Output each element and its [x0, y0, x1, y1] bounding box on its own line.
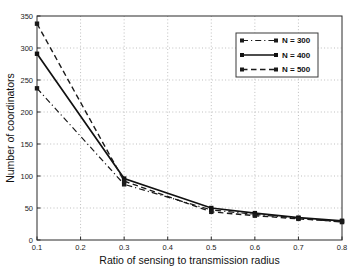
legend-marker-n-400	[240, 53, 244, 57]
y-axis-label: Number of coordinators	[4, 73, 16, 183]
x-tick-label: 0.4	[162, 243, 172, 252]
y-tick-label: 300	[20, 44, 33, 53]
data-point-n-300	[35, 86, 39, 90]
x-axis-label: Ratio of sensing to transmission radius	[99, 254, 279, 266]
legend-marker-n-300	[240, 39, 244, 43]
y-tick-label: 0	[29, 236, 33, 245]
x-tick-label: 0.8	[337, 243, 347, 252]
y-tick-label: 150	[20, 140, 33, 149]
data-point-n-500	[296, 217, 300, 221]
data-point-n-500	[35, 21, 39, 25]
coordinators-vs-ratio-chart: 0.10.20.30.40.50.60.70.80501001502002503…	[0, 0, 361, 274]
data-point-n-500	[253, 213, 257, 217]
data-point-n-500	[209, 210, 213, 214]
data-point-n-500	[122, 179, 126, 183]
y-tick-label: 350	[20, 12, 33, 21]
x-tick-label: 0.5	[206, 243, 216, 252]
data-point-n-500	[340, 219, 344, 223]
data-point-n-400	[35, 52, 39, 56]
legend-marker-n-300	[274, 39, 278, 43]
x-tick-label: 0.2	[75, 243, 85, 252]
legend-marker-n-500	[274, 68, 278, 72]
legend-label-n-500: N = 500	[282, 65, 311, 74]
x-tick-label: 0.6	[250, 243, 260, 252]
legend-label-n-300: N = 300	[282, 36, 311, 45]
x-tick-label: 0.7	[293, 243, 303, 252]
x-tick-label: 0.1	[32, 243, 42, 252]
x-tick-label: 0.3	[119, 243, 129, 252]
line-chart-figure: 0.10.20.30.40.50.60.70.80501001502002503…	[0, 0, 361, 274]
legend-label-n-400: N = 400	[282, 51, 311, 60]
data-point-n-400	[209, 206, 213, 210]
legend-marker-n-400	[274, 53, 278, 57]
legend-marker-n-500	[240, 68, 244, 72]
y-tick-label: 100	[20, 172, 33, 181]
y-tick-label: 50	[25, 204, 33, 213]
y-tick-label: 200	[20, 108, 33, 117]
y-tick-label: 250	[20, 76, 33, 85]
